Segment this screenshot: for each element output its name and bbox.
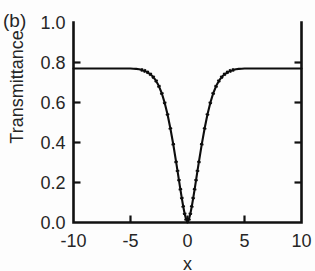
y-tick-label: 0.2 xyxy=(40,173,65,193)
data-marker xyxy=(160,93,163,94)
data-marker xyxy=(206,114,210,115)
transmittance-line-chart: 0.00.20.40.60.81.0 -10-50510 xyxy=(0,0,315,271)
data-marker xyxy=(214,86,217,87)
x-tick-label: 5 xyxy=(239,231,249,251)
y-tick-label: 0.6 xyxy=(40,93,65,113)
data-marker xyxy=(189,213,193,214)
figure-panel-b: (b) Transmittance x 0.00.20.40.60.81.0 -… xyxy=(0,0,315,271)
data-marker xyxy=(144,69,145,72)
data-marker xyxy=(230,69,231,72)
axis-spines xyxy=(74,23,302,223)
y-tick-label: 1.0 xyxy=(40,13,65,33)
x-tick-label: -10 xyxy=(60,231,86,251)
data-marker xyxy=(191,198,195,199)
data-marker xyxy=(157,86,160,87)
data-marker xyxy=(194,180,198,181)
data-marker xyxy=(187,219,190,220)
data-marker xyxy=(141,68,142,71)
data-marker xyxy=(176,171,180,172)
data-series-transmittance xyxy=(74,69,302,223)
x-tick-label: 10 xyxy=(291,231,311,251)
data-marker xyxy=(180,198,184,199)
data-marker xyxy=(200,144,204,145)
y-tick-label: 0.8 xyxy=(40,53,65,73)
data-marker xyxy=(171,144,175,145)
data-marker xyxy=(166,114,170,115)
x-tick-label-group: -10-50510 xyxy=(60,231,311,251)
x-tick-label: 0 xyxy=(182,231,192,251)
data-marker xyxy=(174,162,178,163)
data-marker xyxy=(209,102,212,103)
transmittance-curve xyxy=(74,69,302,223)
data-marker xyxy=(169,128,173,129)
data-marker xyxy=(179,189,183,190)
data-marker xyxy=(163,102,166,103)
tick-mark-group xyxy=(74,63,302,223)
plot-frame xyxy=(74,23,302,223)
data-marker xyxy=(197,162,201,163)
data-marker xyxy=(203,128,207,129)
data-marker xyxy=(183,213,187,214)
x-tick-label: -5 xyxy=(122,231,138,251)
data-marker xyxy=(196,171,200,172)
data-marker xyxy=(177,180,181,181)
data-marker xyxy=(211,93,214,94)
y-tick-label: 0.4 xyxy=(40,133,65,153)
data-marker xyxy=(181,206,185,207)
data-marker xyxy=(233,68,234,71)
data-marker xyxy=(193,189,197,190)
y-tick-label-group: 0.00.20.40.60.81.0 xyxy=(40,13,65,233)
data-marker xyxy=(190,206,194,207)
data-point-markers xyxy=(141,68,233,220)
